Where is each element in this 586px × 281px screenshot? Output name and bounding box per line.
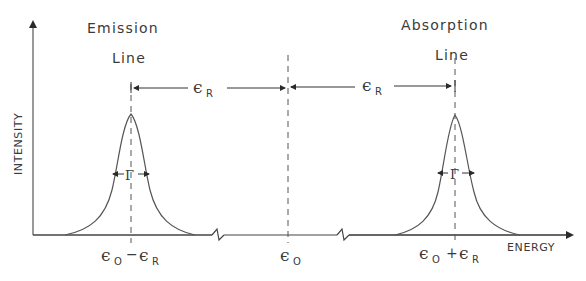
emission-title-line1: Emission <box>87 20 159 36</box>
svg-text:−: − <box>126 246 138 262</box>
emission-title-line2: Line <box>112 50 146 66</box>
svg-text:O: O <box>114 256 122 267</box>
svg-text:ϵ: ϵ <box>362 75 372 95</box>
svg-text:ϵ: ϵ <box>419 243 429 263</box>
emission-linewidth-marker: Γ <box>113 168 149 183</box>
svg-text:Γ: Γ <box>450 167 459 182</box>
recoil-arrow-right: ϵ R <box>291 75 455 97</box>
emission-absorption-diagram: INTENSITY ENERGY Emission Line Absorptio… <box>0 0 586 281</box>
recoil-arrow-left: ϵ R <box>131 77 285 99</box>
svg-text:R: R <box>206 88 213 99</box>
y-axis-label: INTENSITY <box>12 113 25 175</box>
svg-text:O: O <box>432 254 440 265</box>
svg-text:ϵ: ϵ <box>280 245 290 265</box>
svg-text:ϵ: ϵ <box>101 245 111 265</box>
svg-text:+: + <box>446 245 458 261</box>
svg-text:ϵ: ϵ <box>459 243 469 263</box>
tick-label-center-energy: ϵ O <box>280 245 301 267</box>
svg-text:Γ: Γ <box>125 168 134 183</box>
svg-text:R: R <box>152 256 159 267</box>
x-axis <box>33 229 572 240</box>
absorption-title-line1: Absorption <box>401 17 489 33</box>
absorption-title-line2: Line <box>435 47 469 63</box>
x-axis-label: ENERGY <box>507 241 555 254</box>
svg-text:O: O <box>293 256 301 267</box>
axis-break-right <box>337 229 349 240</box>
svg-text:R: R <box>472 254 479 265</box>
axis-break-left <box>212 229 224 240</box>
svg-text:R: R <box>375 86 382 97</box>
svg-text:ϵ: ϵ <box>193 77 203 97</box>
tick-label-emission-energy: ϵ O − ϵ R <box>101 245 159 267</box>
svg-text:ϵ: ϵ <box>139 245 149 265</box>
tick-label-absorption-energy: ϵ O + ϵ R <box>419 243 479 265</box>
